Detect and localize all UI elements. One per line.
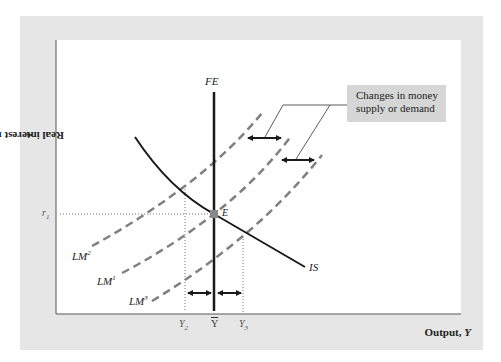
e-label: E bbox=[222, 207, 228, 218]
callout-box: Changes in money supply or demand bbox=[347, 85, 446, 122]
lm1-base: LM bbox=[97, 275, 112, 287]
lm1-label: LM1 bbox=[97, 275, 116, 287]
islm-diagram bbox=[0, 0, 501, 362]
y2-tick-label: Y2 bbox=[179, 318, 188, 329]
callout-leader bbox=[265, 105, 347, 137]
r1-tick-label: r1 bbox=[42, 207, 49, 218]
x-axis-title: Output, Y bbox=[425, 326, 471, 338]
y3-sub: 3 bbox=[245, 324, 249, 332]
lm2-label: LM2 bbox=[72, 250, 91, 262]
callout-line-1: Changes in money bbox=[356, 89, 446, 102]
y2-sub: 2 bbox=[185, 324, 189, 332]
fe-label: FE bbox=[205, 75, 218, 87]
callout-line-2: supply or demand bbox=[356, 102, 446, 115]
x-axis-title-text: Output, bbox=[425, 326, 465, 338]
lm2-sup: 2 bbox=[87, 249, 91, 257]
y3-tick-label: Y3 bbox=[239, 318, 248, 329]
r1-sub: 1 bbox=[46, 213, 50, 221]
lm2-base: LM bbox=[72, 250, 87, 262]
lm3-base: LM bbox=[129, 295, 144, 307]
lm3-sup: 3 bbox=[144, 294, 148, 302]
lm3-label: LM3 bbox=[129, 295, 148, 307]
y-axis-title-text: Real interest rate, bbox=[0, 130, 64, 142]
is-label: IS bbox=[309, 261, 318, 273]
x-axis-var: Y bbox=[464, 326, 471, 338]
equilibrium-point-e bbox=[210, 210, 218, 218]
callout-leader-2 bbox=[296, 105, 330, 159]
lm1-sup: 1 bbox=[112, 274, 116, 282]
ybar-tick-label: Y bbox=[211, 318, 218, 329]
